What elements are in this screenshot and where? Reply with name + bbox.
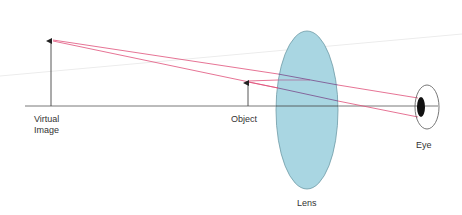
eye-label: Eye — [416, 140, 432, 151]
virtual-image-label-line1: Virtual — [34, 114, 59, 125]
object-ray-lower — [248, 82, 278, 88]
lens-shape — [276, 31, 338, 189]
object-label: Object — [231, 114, 257, 125]
ray-diagram: Virtual Image Object Lens Eye — [0, 0, 462, 215]
virtual-image-label-line2: Image — [34, 125, 59, 136]
virtual-ray-lower — [53, 41, 278, 88]
lens-label: Lens — [297, 198, 317, 209]
eye-pupil — [417, 97, 425, 117]
exit-ray-lower — [338, 101, 418, 117]
diagram-canvas — [0, 0, 462, 215]
object-ray-upper — [248, 80, 278, 81]
background-artifact-line — [0, 34, 462, 76]
virtual-ray-upper — [53, 40, 278, 74]
exit-ray-upper — [338, 85, 418, 98]
